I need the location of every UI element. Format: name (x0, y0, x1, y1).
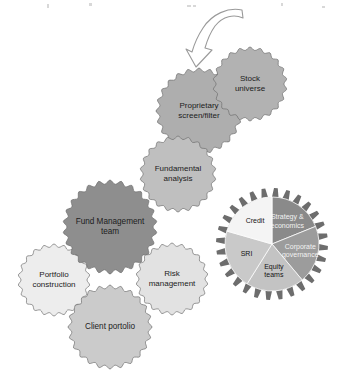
pie-segment-label-equity-teams: Equityteams (264, 263, 284, 278)
pie-gear-group[interactable]: Strategy &economicsCorporategovernanceEq… (216, 188, 328, 300)
scan-artifacts (47, 3, 325, 8)
pie-segment-label-corporate-governance: Corporategovernance (282, 243, 319, 259)
diagram-canvas: Strategy &economicsCorporategovernanceEq… (0, 0, 342, 386)
pie-segment-label-strategy-economics: Strategy &economics (271, 213, 305, 228)
pie-segment-label-sri: SRI (241, 250, 253, 257)
scan-speck (193, 5, 196, 7)
scan-speck (47, 4, 49, 8)
pie-segment-label-credit: Credit (246, 217, 265, 224)
gear-diagram-svg: Strategy &economicsCorporategovernanceEq… (0, 0, 342, 386)
gear-label-client-portolio: Client portolio (85, 322, 136, 331)
gear-label-proprietary-screen-filter: Proprietaryscreen/filter (178, 101, 220, 119)
scan-speck (322, 6, 325, 8)
scan-speck (187, 5, 191, 7)
scan-speck (281, 3, 283, 6)
scan-speck (89, 3, 92, 6)
